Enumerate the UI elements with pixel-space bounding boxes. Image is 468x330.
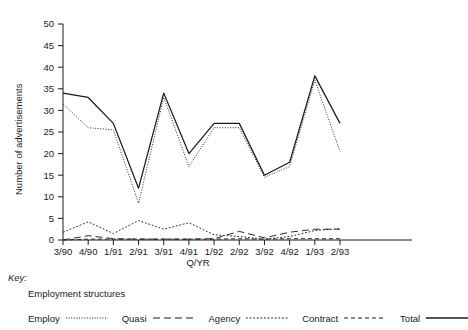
x-tick-label: 4/91 <box>180 246 199 257</box>
x-tick-label: 1/91 <box>104 246 123 257</box>
legend-item-agency: Agency <box>209 313 289 324</box>
series-layer <box>63 76 340 240</box>
legend-label: Quasi <box>122 313 147 324</box>
y-tick-label: 50 <box>43 18 54 29</box>
x-tick-label: 4/90 <box>79 246 98 257</box>
x-tick-label: 3/91 <box>154 246 173 257</box>
chart-key: Key: Employment structures EmployQuasiAg… <box>4 272 418 330</box>
key-subheading: Employment structures <box>28 288 125 299</box>
legend-item-employ: Employ <box>28 313 108 324</box>
line-chart-svg: 05101520253035404550 3/904/901/912/913/9… <box>0 0 418 268</box>
x-tick-label: 3/92 <box>255 246 274 257</box>
y-tick-label: 15 <box>43 170 54 181</box>
legend-swatch-dash-dot <box>344 314 386 322</box>
y-tick-label: 0 <box>49 234 54 245</box>
y-tick-label: 35 <box>43 83 54 94</box>
x-axis-ticks <box>63 240 340 245</box>
legend-swatch-dotted <box>246 314 288 322</box>
y-tick-label: 25 <box>43 126 54 137</box>
legend-item-contract: Contract <box>302 313 386 324</box>
series-line-agency <box>63 221 340 240</box>
y-tick-label: 30 <box>43 105 54 116</box>
x-tick-label: 2/93 <box>331 246 350 257</box>
x-axis-tick-labels: 3/904/901/912/913/914/911/922/923/924/92… <box>54 246 350 257</box>
x-tick-label: 1/92 <box>205 246 224 257</box>
x-tick-label: 2/91 <box>129 246 148 257</box>
y-tick-label: 20 <box>43 148 54 159</box>
x-tick-label: 2/92 <box>230 246 249 257</box>
legend-item-total: Total <box>400 313 468 324</box>
legend-label: Total <box>400 313 420 324</box>
y-tick-label: 10 <box>43 191 54 202</box>
legend-swatch-long-dashed <box>153 314 195 322</box>
y-tick-label: 45 <box>43 40 54 51</box>
x-tick-label: 1/93 <box>306 246 325 257</box>
y-tick-label: 40 <box>43 62 54 73</box>
y-axis-title: Number of advertisements <box>13 83 24 195</box>
x-tick-label: 4/92 <box>280 246 299 257</box>
legend-item-quasi: Quasi <box>122 313 195 324</box>
legend-label: Employ <box>28 313 60 324</box>
y-tick-label: 5 <box>49 213 54 224</box>
x-tick-label: 3/90 <box>54 246 73 257</box>
legend-swatch-fine-dotted <box>66 314 108 322</box>
y-axis-ticks <box>58 24 63 240</box>
series-line-employ <box>63 80 340 203</box>
series-line-total <box>63 76 340 188</box>
legend-label: Agency <box>209 313 241 324</box>
legend-swatch-solid <box>426 314 468 322</box>
x-axis-title: Q/YR <box>186 257 209 268</box>
legend-row: EmployQuasiAgencyContractTotal <box>28 309 412 327</box>
plot-area: 05101520253035404550 3/904/901/912/913/9… <box>0 0 418 268</box>
legend-label: Contract <box>302 313 338 324</box>
key-heading: Key: <box>8 272 27 283</box>
y-axis-tick-labels: 05101520253035404550 <box>43 18 54 245</box>
